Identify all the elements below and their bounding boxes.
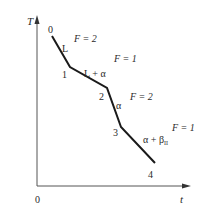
point-label-2: 2 <box>99 91 104 102</box>
point-label-1: 1 <box>62 69 67 80</box>
phase-subscript: II <box>164 140 168 146</box>
dof-label-segment-2: F = 1 <box>113 53 137 64</box>
x-axis-label: t <box>180 193 184 205</box>
phase-label-l: L <box>62 43 68 54</box>
point-label-4: 4 <box>148 169 153 180</box>
dof-label-segment-3: F = 2 <box>129 91 153 102</box>
degrees-of-freedom-labels: F = 2 F = 1 F = 2 F = 1 <box>73 33 195 133</box>
x-axis-arrow-icon <box>182 184 191 189</box>
point-label-3: 3 <box>113 127 118 138</box>
origin-label: 0 <box>35 194 40 205</box>
y-axis: T <box>27 15 40 186</box>
phase-label-l-alpha: L + α <box>84 68 106 79</box>
phase-label-alpha-beta: α + βII <box>143 134 168 146</box>
dof-label-segment-1: F = 2 <box>73 33 97 44</box>
phase-label-alpha: α <box>116 100 122 111</box>
point-label-0: 0 <box>48 24 53 35</box>
y-axis-label: T <box>27 15 34 27</box>
y-axis-arrow-icon <box>35 15 40 24</box>
x-axis: t 0 <box>35 184 191 206</box>
dof-label-segment-4: F = 1 <box>171 122 195 133</box>
cooling-curve-diagram: T t 0 0 1 2 3 4 L L + α α α + βII F = 2 … <box>0 0 207 209</box>
